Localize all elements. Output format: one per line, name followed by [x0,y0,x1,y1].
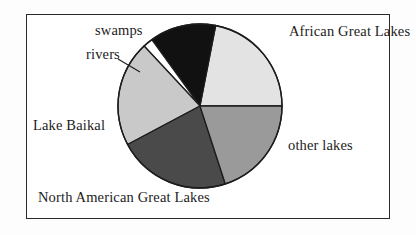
pie-label-north-american-great-lakes: North American Great Lakes [38,190,210,205]
pie-label-other-lakes: other lakes [288,138,353,153]
pie-label-lake-baikal: Lake Baikal [33,118,105,133]
pie-label-swamps: swamps [95,23,143,38]
pie-slice-group [118,24,282,188]
pie-label-african-great-lakes: African Great Lakes [289,24,410,39]
pie-label-rivers: rivers [86,47,120,62]
figure-root: African Great Lakes other lakes North Am… [0,0,416,235]
